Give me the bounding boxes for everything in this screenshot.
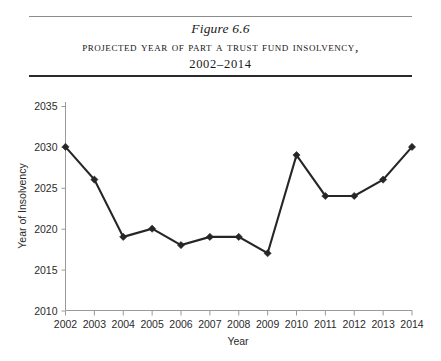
- x-tick-label: 2003: [83, 318, 107, 330]
- y-tick-label: 2030: [34, 141, 58, 153]
- x-tick-label: 2002: [54, 318, 78, 330]
- figure-number: Figure 6.6: [29, 17, 412, 37]
- y-tick-label: 2010: [34, 305, 58, 317]
- x-tick-group: 2002200320042005200620072008200920102011…: [54, 311, 424, 330]
- y-tick-label: 2025: [34, 182, 58, 194]
- x-axis-title: Year: [227, 335, 249, 347]
- x-tick-label: 2005: [140, 318, 164, 330]
- x-tick-label: 2009: [256, 318, 280, 330]
- data-point-marker: [120, 233, 127, 240]
- x-tick-label: 2014: [400, 318, 424, 330]
- figure-date-range: 2002–2014: [29, 55, 412, 72]
- y-tick-label: 2035: [34, 100, 58, 112]
- data-series: [62, 143, 416, 257]
- chart-container: 201020152020202520302035 Year of Insolve…: [0, 92, 441, 357]
- x-tick-label: 2006: [169, 318, 193, 330]
- y-tick-group: 201020152020202520302035: [34, 100, 65, 317]
- x-tick-label: 2010: [285, 318, 309, 330]
- y-tick-label: 2020: [34, 223, 58, 235]
- x-axis: 2002200320042005200620072008200920102011…: [54, 311, 424, 348]
- figure-title: Projected Year of Part A Trust Fund Inso…: [29, 37, 412, 55]
- x-tick-label: 2011: [314, 318, 337, 330]
- x-tick-label: 2013: [371, 318, 395, 330]
- line-chart: 201020152020202520302035 Year of Insolve…: [0, 92, 441, 357]
- x-tick-label: 2008: [227, 318, 251, 330]
- header-rule-bottom: [29, 75, 412, 77]
- series-markers: [62, 143, 416, 257]
- x-tick-label: 2004: [112, 318, 136, 330]
- y-axis-title: Year of Insolvency: [16, 163, 28, 249]
- figure-header: Figure 6.6 Projected Year of Part A Trus…: [29, 16, 412, 77]
- y-tick-label: 2015: [34, 264, 58, 276]
- x-tick-label: 2007: [198, 318, 222, 330]
- data-point-marker: [206, 233, 213, 240]
- y-axis: 201020152020202520302035 Year of Insolve…: [16, 100, 66, 317]
- x-tick-label: 2012: [343, 318, 367, 330]
